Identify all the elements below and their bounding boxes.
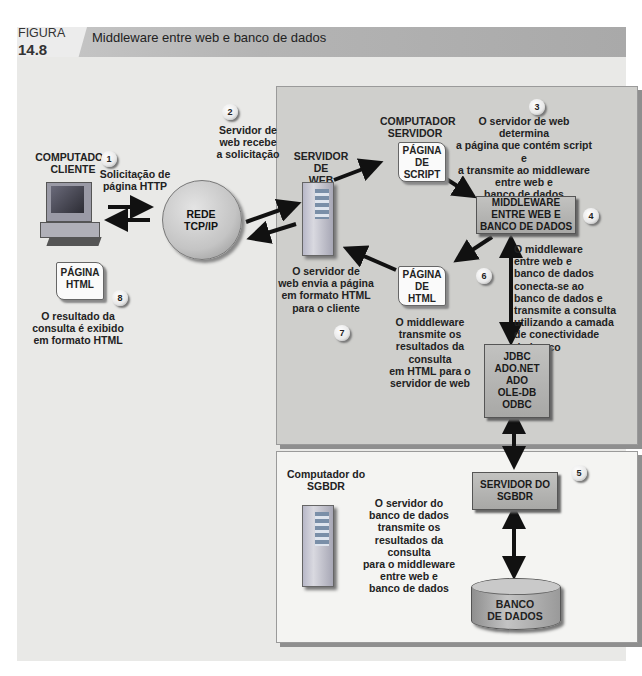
step-2-badge: 2 — [222, 104, 238, 120]
result-display-text: O resultado da consulta é exibido em for… — [28, 310, 128, 347]
script-page: PÁGINA DE SCRIPT — [398, 142, 446, 182]
middleware-connect-text: O middleware entre web e banco de dados … — [514, 243, 624, 353]
html-page: PÁGINA DE HTML — [398, 266, 446, 306]
step-3-badge: 3 — [529, 99, 545, 115]
http-request-label: Solicitação de página HTTP — [90, 168, 180, 192]
dbms-results-text: O servidor do banco de dados transmite o… — [354, 497, 464, 595]
server-receives-text: Servidor de web recebe a solicitação — [213, 124, 283, 161]
step-4-badge: 4 — [583, 208, 599, 224]
step-6-badge: 6 — [476, 268, 492, 284]
step-1-badge: 1 — [101, 151, 117, 167]
network-label: REDE TCP/IP — [162, 208, 240, 232]
step-5-badge: 5 — [571, 465, 587, 481]
server-computer-title: COMPUTADOR SERVIDOR — [380, 115, 450, 139]
web-server-icon — [302, 182, 334, 256]
script-determine-text: O servidor de web determina a página que… — [454, 115, 594, 200]
database-label: BANCO DE DADOS — [471, 598, 559, 622]
middleware-results-text: O middleware transmite os resultados da … — [380, 316, 480, 389]
connectivity-layer-box: JDBC ADO.NET ADO OLE-DB ODBC — [484, 344, 550, 418]
dbms-server-icon — [302, 505, 334, 587]
dbms-computer-title: Computador do SGBDR — [286, 468, 366, 492]
web-server-send-text: O servidor de web envia a página em form… — [276, 265, 376, 314]
middleware-box: MIDDLEWARE ENTRE WEB E BANCO DE DADOS — [476, 196, 576, 234]
dbms-server-box: SERVIDOR DO SGBDR — [472, 472, 558, 510]
step-7-badge: 7 — [334, 325, 350, 341]
step-8-badge: 8 — [112, 290, 128, 306]
client-html-page: PÁGINA HTML — [56, 262, 104, 300]
